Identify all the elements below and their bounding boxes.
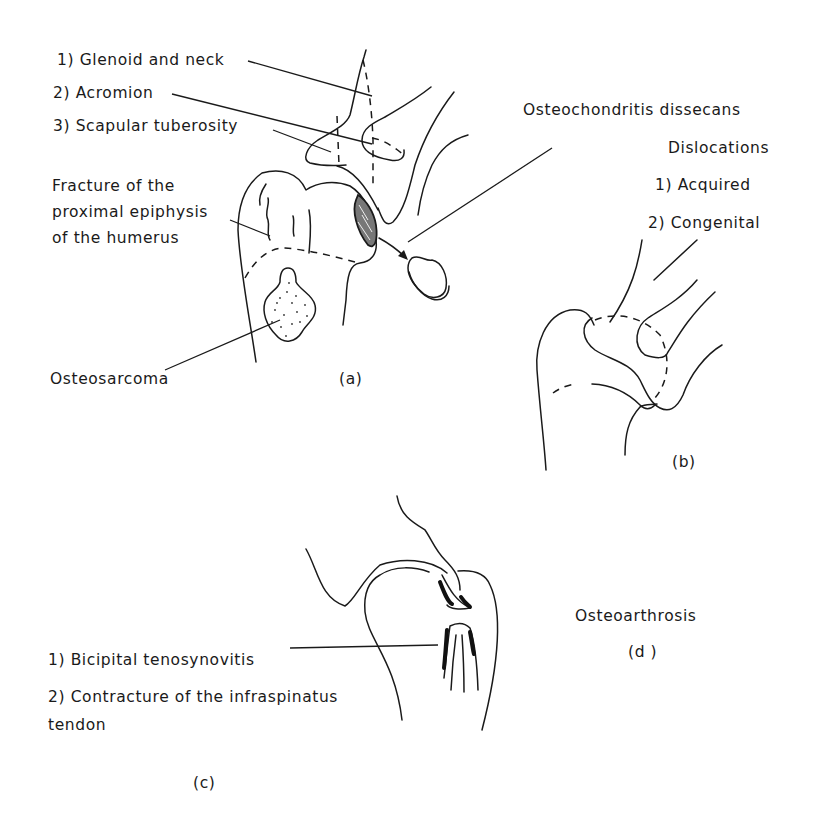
acromion-dashed-line	[372, 138, 404, 155]
leader-glenoid	[248, 61, 372, 96]
label-glenoid: 1) Glenoid and neck	[57, 51, 224, 69]
scapula-neck-outline	[306, 50, 366, 166]
leader-bicipital	[290, 645, 438, 648]
biceps-tendon-lower	[444, 623, 478, 690]
leader-osteosarcoma	[165, 320, 280, 370]
caption-a: (a)	[339, 370, 362, 388]
glenoid-dashed-line	[363, 60, 373, 185]
loose-body-fragment	[408, 257, 446, 298]
label-contracture-line2: tendon	[48, 716, 106, 734]
tenosynovitis-lower-right	[470, 632, 474, 654]
label-congenital: 2) Congenital	[648, 214, 760, 232]
fracture-mark	[259, 184, 266, 205]
label-fracture-line2: proximal epiphysis	[52, 203, 208, 221]
acromion-lower-outline	[378, 92, 454, 224]
caption-c: (c)	[193, 774, 215, 792]
label-dislocations: Dislocations	[668, 139, 769, 157]
label-acromion: 2) Acromion	[53, 84, 154, 102]
leader-congenital	[654, 240, 697, 280]
tendon-fibers-lower	[451, 635, 464, 692]
label-osteosarcoma: Osteosarcoma	[50, 370, 169, 388]
tenosynovitis-upper-right	[461, 597, 470, 607]
humerus-head-c	[365, 568, 429, 720]
humerus-shaft-b	[625, 404, 657, 455]
shoulder-pathology-figure: 1) Glenoid and neck 2) Acromion 3) Scapu…	[0, 0, 826, 834]
epiphyseal-dashed-line	[245, 248, 355, 278]
label-bicipital-tenosynovitis: 1) Bicipital tenosynovitis	[48, 651, 255, 669]
label-osteoarthrosis: Osteoarthrosis	[575, 607, 697, 625]
scapula-outline	[610, 240, 642, 322]
osteosarcoma-lesion	[264, 268, 315, 341]
humerus-outline-b	[537, 310, 594, 470]
caption-d: (d )	[628, 643, 657, 661]
fracture-mark	[309, 210, 311, 253]
acromion-outline-b	[637, 280, 715, 358]
tenosynovitis-upper	[440, 582, 452, 604]
panel-b-drawing	[537, 240, 722, 470]
fracture-mark	[267, 198, 270, 240]
label-scapular-tuberosity: 3) Scapular tuberosity	[53, 117, 238, 135]
leader-scapular	[273, 130, 331, 152]
glenoid-outline-b	[584, 318, 722, 410]
loose-body-shadow	[409, 272, 449, 300]
label-acquired: 1) Acquired	[655, 176, 751, 194]
caption-b: (b)	[672, 453, 696, 471]
label-contracture-line1: 2) Contracture of the infraspinatus	[48, 688, 338, 706]
scapular-dashed-line	[337, 116, 339, 165]
leader-osteochondritis	[408, 148, 552, 242]
label-osteochondritis: Osteochondritis dissecans	[523, 101, 741, 119]
humerus-right-c	[458, 571, 498, 730]
epiphyseal-dashed-b	[553, 384, 575, 393]
label-fracture-line1: Fracture of the	[52, 177, 175, 195]
leader-fracture	[230, 220, 270, 236]
fracture-mark	[293, 216, 294, 236]
clavicle-outline	[418, 135, 468, 215]
label-fracture-line3: of the humerus	[52, 229, 179, 247]
panel-a-drawing	[165, 50, 552, 370]
tenosynovitis-lower-left	[444, 630, 447, 668]
biceps-tendon-upper	[397, 496, 460, 590]
